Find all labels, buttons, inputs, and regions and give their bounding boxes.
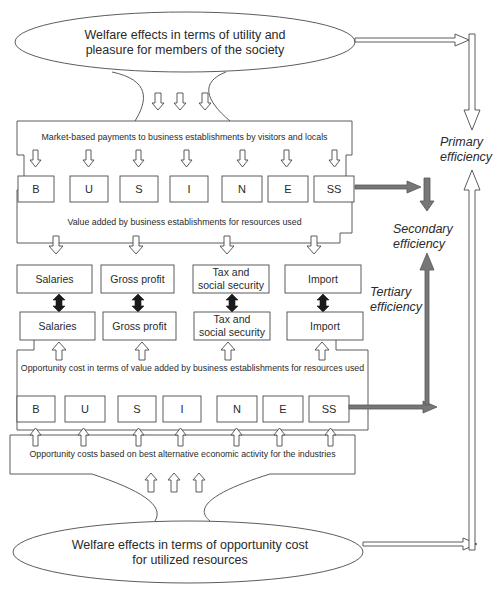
business-top-i: I [170,183,208,196]
business-bottom-u: U [65,403,105,416]
secondary-down-arrow [420,178,434,211]
business-bottom-e: E [263,403,303,416]
diagram-canvas [0,0,502,590]
bottom-funnel [92,474,270,521]
primary-efficiency-label: Primary efficiency [440,135,492,165]
upper-tax-line-2: social security [193,279,269,292]
top-business-to-secondary-arrow [355,181,421,193]
business-top-u: U [70,183,108,196]
lower-tax-line-2: social security [194,326,270,339]
value-added-down-arrows [49,236,321,254]
top-ellipse-text: Welfare effects in terms of utility and … [40,28,330,58]
top-ellipse-line-1: Welfare effects in terms of utility and [40,28,330,43]
lower-tax: Tax and social security [194,313,270,338]
business-top-s: S [120,183,158,196]
business-top-b: B [18,183,54,196]
secondary-up-arrow [420,253,434,405]
primary-line-1: Primary [440,135,492,150]
bottom-to-primary-arrow [363,538,477,550]
top-ellipse-line-2: pleasure for members of the society [40,43,330,58]
upper-import: Import [285,273,361,286]
market-payments-down-arrows [30,150,340,167]
secondary-efficiency-label: Secondary efficiency [393,222,453,252]
primary-down-arrow [464,34,480,130]
opportunity-alternative-label: Opportunity costs based on best alternat… [10,449,355,460]
market-payments-label: Market-based payments to business establ… [17,132,352,143]
business-bottom-n: N [217,403,257,416]
top-ellipse-down-arrows [152,93,211,110]
business-top-n: N [222,183,262,196]
primary-up-arrow [464,170,480,550]
business-bottom-ss: SS [309,403,349,416]
upper-tax: Tax and social security [193,266,269,291]
lower-salaries: Salaries [20,320,95,333]
bottom-business-to-tertiary-arrow [349,401,437,413]
business-bottom-s: S [118,403,156,416]
black-double-arrows [53,294,329,312]
tertiary-line-1: Tertiary [370,285,422,300]
bottom-ellipse-line-1: Welfare effects in terms of opportunity … [50,538,330,553]
bottom-ellipse-up-arrows [145,473,205,492]
upper-gross-profit: Gross profit [101,273,174,286]
upper-salaries: Salaries [17,273,92,286]
value-added-label: Value added by business establishments f… [17,217,352,228]
lower-gross-profit: Gross profit [103,320,176,333]
opportunity-value-added-label: Opportunity cost in terms of value added… [17,363,368,374]
top-to-primary-arrow [355,34,469,46]
business-bottom-b: B [17,403,55,416]
alternative-up-arrows [30,428,336,446]
bottom-ellipse-text: Welfare effects in terms of opportunity … [50,538,330,568]
tertiary-line-2: efficiency [370,300,422,315]
upper-tax-line-1: Tax and [193,266,269,279]
secondary-line-1: Secondary [393,222,453,237]
top-funnel [112,72,230,121]
lower-import: Import [287,320,363,333]
business-bottom-i: I [163,403,201,416]
primary-line-2: efficiency [440,150,492,165]
secondary-line-2: efficiency [393,237,453,252]
lower-tax-line-1: Tax and [194,313,270,326]
opportunity-up-arrows [52,342,329,360]
tertiary-efficiency-label: Tertiary efficiency [370,285,422,315]
business-top-e: E [268,183,308,196]
bottom-ellipse-line-2: for utilized resources [50,553,330,568]
business-top-ss: SS [314,183,354,196]
